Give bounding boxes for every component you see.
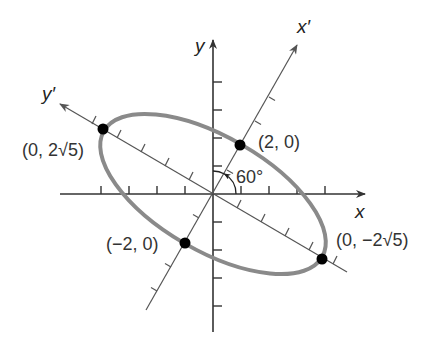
y-axis-label: y bbox=[193, 35, 206, 56]
label-vertex-top-left: (0, 2√5) bbox=[22, 140, 84, 160]
y-axis bbox=[213, 40, 222, 332]
label-vertex-bottom-right: (0, −2√5) bbox=[336, 230, 408, 250]
y-prime-axis-label: y′ bbox=[40, 83, 57, 104]
point-covertex-upper bbox=[235, 140, 246, 151]
point-covertex-lower bbox=[180, 238, 191, 249]
x-prime-axis-label: x′ bbox=[296, 16, 312, 37]
label-covertex-upper: (2, 0) bbox=[258, 132, 300, 152]
ellipse-diagram: y x x′ y′ 60° (0, 2√5) (2, 0) (−2, 0) (0… bbox=[0, 0, 427, 348]
x-prime-axis bbox=[146, 45, 297, 310]
x-axis-label: x bbox=[354, 201, 366, 222]
point-vertex-bottom-right bbox=[317, 254, 328, 265]
point-vertex-top-left bbox=[98, 124, 109, 135]
angle-label: 60° bbox=[236, 167, 263, 187]
label-covertex-lower: (−2, 0) bbox=[106, 234, 159, 254]
angle-arc bbox=[213, 171, 236, 194]
